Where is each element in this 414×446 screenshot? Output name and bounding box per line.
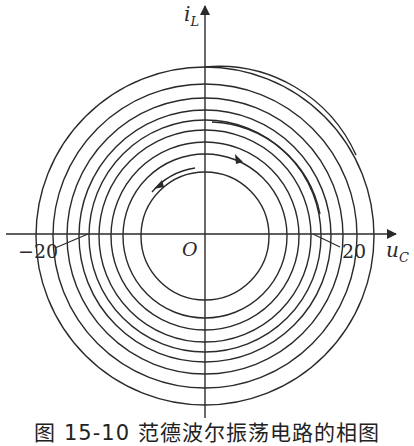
figure-caption: 图 15-10 范德波尔振荡电路的相图 [0,416,414,446]
tick-label-right: 20 [342,240,366,262]
origin-label: O [182,238,198,260]
x-axis-label: uC [386,238,409,265]
tick-label-left: −20 [18,240,58,262]
tick-leader-right [313,234,340,247]
y-axis-label: iL [184,2,199,29]
tick-leader-left [55,234,88,248]
